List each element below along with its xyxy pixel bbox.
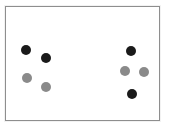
scatter-plot-area xyxy=(6,7,159,120)
plot-frame xyxy=(5,6,160,121)
scatter-point-left-cluster-grey-2 xyxy=(41,82,51,92)
scatter-point-right-cluster-dark-top xyxy=(126,46,136,56)
figure-root xyxy=(0,0,169,138)
scatter-point-right-cluster-grey-right xyxy=(139,67,149,77)
scatter-point-left-cluster-dark-1 xyxy=(21,45,31,55)
scatter-point-right-cluster-dark-bottom xyxy=(127,89,137,99)
figure-caption xyxy=(0,128,169,138)
scatter-point-left-cluster-grey-1 xyxy=(22,73,32,83)
scatter-point-right-cluster-grey-left xyxy=(120,66,130,76)
scatter-point-left-cluster-dark-2 xyxy=(41,53,51,63)
